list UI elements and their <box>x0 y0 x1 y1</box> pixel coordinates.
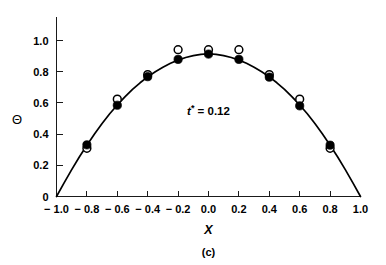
filled-circle-marker <box>296 102 304 110</box>
filled-circle-marker <box>204 50 212 58</box>
filled-circle-marker <box>326 141 334 149</box>
x-tick-label: 1.0 <box>353 203 368 215</box>
x-axis-ticks <box>87 191 330 197</box>
y-tick-label: 0.4 <box>33 128 49 140</box>
filled-circle-marker <box>265 73 273 81</box>
filled-circle-marker <box>113 101 121 109</box>
y-axis-label: Θ <box>12 112 22 127</box>
filled-circle-marker <box>83 141 91 149</box>
open-circle-data-points <box>83 46 334 152</box>
x-tick-label: − 0.2 <box>166 203 191 215</box>
annotation-t-star: t* = 0.12 <box>187 103 230 117</box>
y-tick-label: 0.8 <box>33 66 48 78</box>
x-tick-label: 0.4 <box>262 203 278 215</box>
y-axis-tick-labels: 00.20.40.60.81.0 <box>33 35 49 203</box>
filled-circle-marker <box>174 55 182 63</box>
figure-caption: (c) <box>202 246 216 258</box>
filled-circle-marker <box>144 73 152 81</box>
open-circle-marker <box>174 46 182 54</box>
model-curve <box>57 54 361 197</box>
annotation-relation: = 0.12 <box>194 105 230 117</box>
y-tick-label: 0.6 <box>33 97 48 109</box>
filled-circle-marker <box>235 55 243 63</box>
y-tick-label: 1.0 <box>33 35 48 47</box>
x-axis-tick-labels: − 1.0− 0.8− 0.6− 0.4− 0.20.00.20.40.60.8… <box>44 203 368 215</box>
x-tick-label: 0.8 <box>322 203 337 215</box>
open-circle-marker <box>235 46 243 54</box>
x-axis-label: X <box>203 223 213 237</box>
y-tick-label: 0.2 <box>33 159 48 171</box>
chart-canvas: 00.20.40.60.81.0 − 1.0− 0.8− 0.6− 0.4− 0… <box>0 0 386 265</box>
figure-container: 00.20.40.60.81.0 − 1.0− 0.8− 0.6− 0.4− 0… <box>0 0 386 265</box>
y-axis-ticks <box>57 41 63 166</box>
x-tick-label: − 0.6 <box>105 203 130 215</box>
x-tick-label: 0.0 <box>201 203 216 215</box>
x-tick-label: − 1.0 <box>44 203 69 215</box>
x-tick-label: 0.2 <box>231 203 246 215</box>
x-tick-label: − 0.4 <box>135 203 161 215</box>
x-tick-label: − 0.8 <box>75 203 100 215</box>
y-tick-label: 0 <box>42 191 48 203</box>
x-tick-label: 0.6 <box>292 203 307 215</box>
